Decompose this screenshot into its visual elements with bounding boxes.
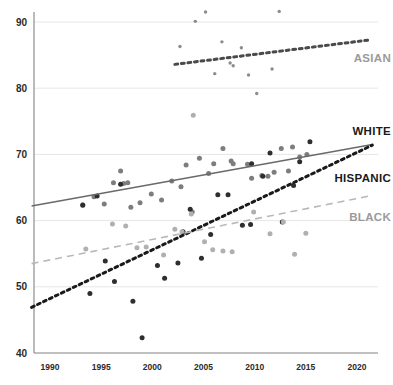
- data-point: [265, 174, 270, 179]
- data-point: [138, 200, 143, 205]
- data-point: [231, 161, 236, 166]
- gridlines: [34, 22, 378, 353]
- data-point: [111, 180, 116, 185]
- data-point: [226, 192, 231, 197]
- data-point: [260, 174, 265, 179]
- data-point: [149, 192, 154, 197]
- series-label-black: BLACK: [349, 211, 391, 223]
- data-point: [191, 113, 196, 118]
- y-axis-tick-labels: 405060708090: [16, 17, 28, 359]
- data-points-layer: [80, 10, 312, 341]
- data-point: [140, 335, 145, 340]
- y-tick-label-90: 90: [16, 17, 28, 28]
- data-point: [240, 46, 243, 49]
- data-point: [178, 184, 183, 189]
- x-tick-label-2005: 2005: [194, 362, 213, 372]
- trend-lines-layer: [32, 40, 373, 307]
- data-point: [80, 203, 85, 208]
- data-point: [175, 260, 180, 265]
- data-point: [202, 239, 207, 244]
- data-point: [220, 249, 225, 254]
- trend-line-white: [32, 144, 373, 206]
- data-point: [292, 252, 297, 257]
- data-point: [220, 40, 223, 43]
- data-point: [248, 222, 253, 227]
- data-point: [159, 198, 164, 203]
- data-point: [118, 182, 123, 187]
- data-point: [172, 227, 177, 232]
- data-point: [297, 159, 302, 164]
- data-point: [286, 168, 291, 173]
- data-point: [123, 223, 128, 228]
- series-label-white: WHITE: [352, 125, 391, 137]
- data-point: [281, 219, 286, 224]
- data-point: [134, 245, 139, 250]
- data-point: [268, 151, 273, 156]
- data-point: [118, 168, 123, 173]
- data-point: [278, 10, 281, 13]
- axis-lines: [34, 12, 378, 353]
- data-point: [112, 279, 117, 284]
- x-tick-label-2020: 2020: [348, 362, 367, 372]
- y-tick-label-40: 40: [16, 348, 28, 359]
- data-point: [228, 61, 231, 64]
- data-point: [210, 247, 215, 252]
- data-point: [220, 146, 225, 151]
- data-point: [130, 299, 135, 304]
- y-tick-label-70: 70: [16, 149, 28, 160]
- x-tick-label-2015: 2015: [296, 362, 315, 372]
- data-point: [128, 205, 133, 210]
- x-tick-label-2000: 2000: [143, 362, 162, 372]
- data-point: [199, 256, 204, 261]
- data-point: [247, 73, 250, 76]
- data-point: [178, 45, 181, 48]
- data-point: [208, 232, 213, 237]
- scatter-chart: 405060708090 199019952000200520102015202…: [0, 0, 393, 385]
- data-point: [255, 92, 258, 95]
- data-points-hispanic: [80, 139, 312, 340]
- data-point: [103, 258, 108, 263]
- data-point: [189, 211, 194, 216]
- chart-canvas: 405060708090 199019952000200520102015202…: [0, 0, 393, 385]
- data-points-white: [80, 145, 309, 215]
- y-tick-label-60: 60: [16, 215, 28, 226]
- data-point: [303, 231, 308, 236]
- data-point: [102, 202, 107, 207]
- data-point: [194, 20, 197, 23]
- data-point: [231, 64, 234, 67]
- data-point: [290, 145, 295, 150]
- data-point: [213, 72, 216, 75]
- data-point: [230, 249, 235, 254]
- data-point: [307, 139, 312, 144]
- trend-line-hispanic: [32, 145, 373, 307]
- y-tick-label-80: 80: [16, 83, 28, 94]
- trend-line-asian: [175, 40, 370, 65]
- data-point: [110, 221, 115, 226]
- data-point: [204, 10, 207, 13]
- data-point: [251, 209, 256, 214]
- x-tick-label-1995: 1995: [92, 362, 111, 372]
- data-points-black: [83, 113, 308, 258]
- x-tick-label-1990: 1990: [41, 362, 60, 372]
- data-point: [270, 67, 273, 70]
- series-label-hispanic: HISPANIC: [335, 172, 392, 184]
- data-point: [197, 156, 202, 161]
- x-tick-label-2010: 2010: [245, 362, 264, 372]
- data-point: [215, 192, 220, 197]
- y-tick-label-50: 50: [16, 281, 28, 292]
- data-point: [240, 223, 245, 228]
- data-point: [144, 245, 149, 250]
- data-point: [87, 291, 92, 296]
- data-point: [161, 253, 166, 258]
- data-point: [279, 146, 284, 151]
- data-point: [125, 180, 130, 185]
- data-point: [184, 162, 189, 167]
- data-point: [180, 229, 185, 234]
- data-point: [162, 276, 167, 281]
- x-axis-tick-labels: 1990199520002005201020152020: [41, 362, 367, 372]
- data-point: [268, 231, 273, 236]
- data-point: [83, 247, 88, 252]
- data-point: [155, 263, 160, 268]
- data-point: [188, 207, 193, 212]
- series-label-asian: ASIAN: [354, 52, 391, 64]
